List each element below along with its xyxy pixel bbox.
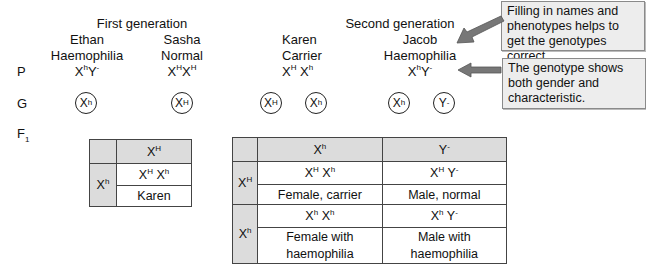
- person-name-sasha: Sasha: [142, 32, 222, 47]
- genotype-sasha: XHXH: [157, 64, 207, 79]
- corner-cell: [233, 138, 258, 162]
- gamete-jacob-xh: Xh: [388, 92, 410, 114]
- col-header: XH: [117, 140, 192, 164]
- row-label-offspring: F1: [17, 126, 29, 144]
- cell-genotype: XH Xh: [258, 162, 382, 185]
- note-names-phenotypes: Filling in names and phenotypes helps to…: [501, 1, 645, 51]
- first-generation-heading: First generation: [62, 16, 222, 31]
- cell-label: Karen: [117, 186, 192, 207]
- person-name-karen: Karen: [282, 32, 322, 47]
- cell-genotype: Xh Xh: [258, 205, 382, 228]
- cell-label: Male, normal: [382, 185, 506, 205]
- arrow-diagonal-icon: [455, 14, 505, 46]
- phenotype-ethan: Haemophilia: [37, 48, 137, 63]
- row-header: Xh: [90, 164, 117, 207]
- row-header-xH: XH: [233, 162, 258, 205]
- phenotype-karen: Carrier: [282, 48, 322, 63]
- corner-cell: [90, 140, 117, 164]
- row-label-gametes: G: [17, 96, 27, 111]
- gamete-jacob-y: Y-: [433, 92, 455, 114]
- person-name-ethan: Ethan: [47, 32, 127, 47]
- col-header-xh: Xh: [258, 138, 382, 162]
- cell-label: Female with haemophilia: [258, 228, 382, 264]
- cell-label: Female, carrier: [258, 185, 382, 205]
- gamete-karen-xh: Xh: [305, 92, 327, 114]
- col-header-y: Y-: [382, 138, 506, 162]
- genotype-ethan: XhY-: [62, 64, 112, 79]
- genotype-jacob: XhY-: [395, 64, 445, 79]
- cell-label: Male with haemophilia: [382, 228, 506, 264]
- f-label: F: [17, 126, 25, 141]
- arrow-left-icon: [456, 62, 502, 78]
- gamete-sasha-xH: XH: [171, 92, 193, 114]
- punnett-square-large: Xh Y- XH XH Xh XH Y- Female, carrier Mal…: [232, 137, 507, 264]
- cell-genotype: XH Y-: [382, 162, 506, 185]
- person-name-jacob: Jacob: [380, 32, 460, 47]
- genotype-karen: XH Xh: [282, 64, 313, 79]
- f-subscript: 1: [25, 135, 29, 144]
- gamete-karen-xH: XH: [260, 92, 282, 114]
- phenotype-sasha: Normal: [142, 48, 222, 63]
- punnett-square-small: XH Xh XH Xh Karen: [89, 139, 192, 207]
- row-header-xh: Xh: [233, 205, 258, 264]
- cell-genotype: XH Xh: [117, 164, 192, 186]
- cell-genotype: Xh Y-: [382, 205, 506, 228]
- phenotype-jacob: Haemophilia: [370, 48, 470, 63]
- gamete-ethan-xh: Xh: [75, 92, 97, 114]
- row-label-parents: P: [17, 64, 26, 79]
- note-genotype-gender: The genotype shows both gender and chara…: [502, 58, 646, 109]
